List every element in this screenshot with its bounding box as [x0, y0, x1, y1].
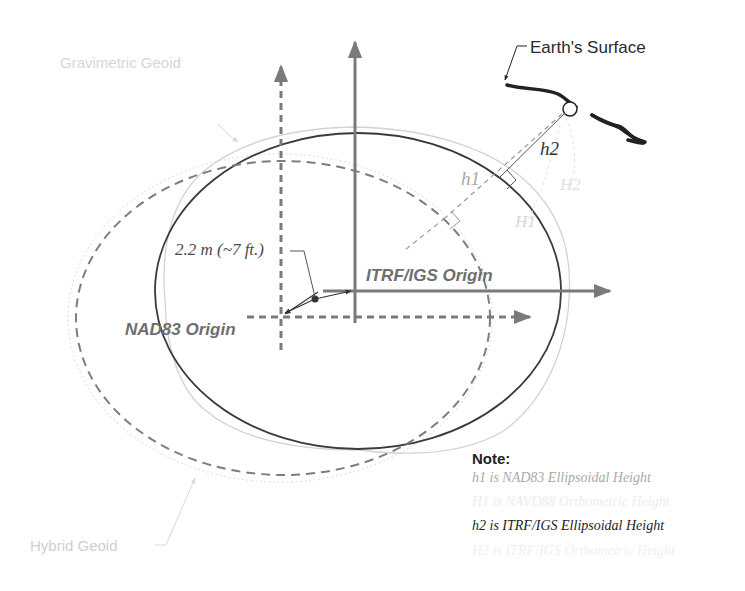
- h1-right-angle: [450, 211, 460, 229]
- surface-point: [563, 102, 577, 116]
- note-line-h1: h1 is NAD83 Ellipsoidal Height: [472, 470, 651, 486]
- earth-surface-leader: [505, 46, 527, 80]
- h2-label: h2: [540, 138, 559, 160]
- note-line-h2: h2 is ITRF/IGS Ellipsoidal Height: [472, 518, 664, 534]
- earth-surface-label: Earth's Surface: [530, 38, 646, 58]
- H2-label: H2: [560, 175, 581, 195]
- H1-label: H1: [515, 212, 536, 232]
- note-line-H1: H1 is NAVD88 Orthometric Height: [472, 494, 670, 510]
- gravimetric-geoid-label: Gravimetric Geoid: [60, 54, 181, 71]
- offset-label: 2.2 m (~7 ft.): [175, 240, 264, 260]
- h2-right-angle: [507, 170, 516, 189]
- note-line-H2: H2 is ITRF/IGS Orthometric Height: [472, 543, 675, 559]
- h1-label: h1: [461, 168, 480, 190]
- itrf-origin-label: ITRF/IGS Origin: [366, 266, 493, 286]
- note-title: Note:: [472, 450, 510, 467]
- offset-leader-line: [290, 251, 315, 297]
- gravimetric-geoid-leader: [218, 124, 238, 142]
- hybrid-geoid-label: Hybrid Geoid: [30, 537, 118, 554]
- nad83-origin-label: NAD83 Origin: [125, 320, 236, 340]
- hybrid-geoid-leader: [155, 478, 195, 545]
